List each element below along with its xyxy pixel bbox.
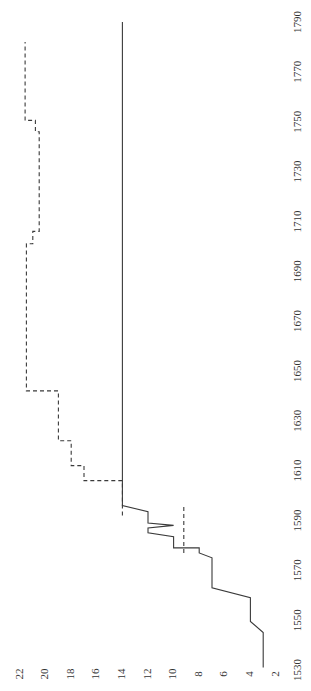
year-tick-label: 1550 (291, 609, 303, 632)
year-tick-label: 1790 (291, 11, 303, 34)
value-tick-label: 10 (166, 668, 178, 680)
rotated-step-line-chart: 1530155015701590161016301650167016901710… (0, 0, 311, 691)
year-tick-label: 1630 (291, 409, 303, 432)
year-tick-label: 1670 (291, 310, 303, 333)
value-tick-label: 2 (269, 671, 281, 677)
series-solid-line (122, 22, 263, 668)
value-tick-label: 18 (64, 668, 76, 680)
year-tick-label: 1770 (291, 60, 303, 83)
series-lines (25, 22, 263, 668)
year-tick-label: 1730 (291, 160, 303, 183)
year-tick-label: 1750 (291, 110, 303, 133)
value-tick-label: 12 (141, 669, 153, 680)
value-tick-label: 20 (38, 668, 50, 680)
year-tick-label: 1690 (291, 260, 303, 283)
value-tick-label: 14 (115, 668, 127, 680)
value-tick-label: 6 (217, 671, 229, 677)
value-tick-label: 4 (243, 671, 255, 677)
year-tick-label: 1650 (291, 359, 303, 382)
year-tick-label: 1570 (291, 559, 303, 582)
value-axis-labels: 246810121416182022 (13, 668, 281, 680)
value-tick-label: 16 (89, 668, 101, 680)
year-tick-label: 1710 (291, 210, 303, 233)
year-tick-label: 1530 (291, 659, 303, 682)
year-tick-label: 1610 (291, 459, 303, 482)
year-axis-labels: 1530155015701590161016301650167016901710… (291, 11, 303, 682)
value-tick-label: 8 (192, 671, 204, 677)
series-dashed-line (25, 42, 122, 516)
value-tick-label: 22 (13, 669, 25, 680)
year-tick-label: 1590 (291, 509, 303, 532)
